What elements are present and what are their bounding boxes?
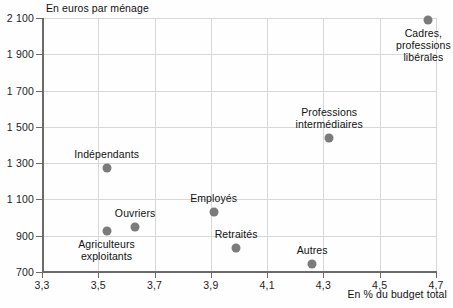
data-point-label: Agriculteurs exploitants — [78, 239, 135, 263]
x-axis-tick — [436, 273, 437, 278]
x-axis-tick — [380, 273, 381, 278]
y-axis-tick-label: 700 — [16, 267, 34, 278]
gridline-horizontal — [42, 163, 436, 164]
gridline-horizontal — [42, 18, 436, 19]
x-axis-tick — [42, 273, 43, 278]
gridline-horizontal — [42, 199, 436, 200]
x-axis-tick — [267, 273, 268, 278]
y-axis-tick-label: 1 500 — [7, 122, 34, 133]
gridline-vertical — [211, 18, 212, 272]
y-axis-tick — [36, 199, 42, 200]
data-point[interactable] — [325, 133, 334, 142]
x-axis-tick — [155, 273, 156, 278]
x-axis-tick — [323, 273, 324, 278]
gridline-vertical — [380, 18, 381, 272]
y-axis-tick — [36, 91, 42, 92]
data-point[interactable] — [209, 208, 218, 217]
y-axis-title: En euros par ménage — [46, 2, 149, 14]
gridline-vertical — [267, 18, 268, 272]
x-axis-tick-label: 4,7 — [428, 280, 443, 291]
x-axis-tick-label: 3,3 — [34, 280, 49, 291]
y-axis-tick-label: 1 700 — [7, 86, 34, 97]
x-axis-tick-label: 4,1 — [260, 280, 275, 291]
data-point-label: Indépendants — [74, 149, 139, 161]
data-point[interactable] — [232, 244, 241, 253]
data-point-label: Ouvriers — [115, 208, 155, 220]
x-axis-tick — [98, 273, 99, 278]
y-axis-line — [42, 18, 44, 273]
data-point[interactable] — [102, 227, 111, 236]
data-point[interactable] — [423, 15, 432, 24]
y-axis-tick — [36, 236, 42, 237]
y-axis-tick — [36, 54, 42, 55]
data-point-label: Employés — [190, 193, 237, 205]
data-point-label: Autres — [297, 245, 328, 257]
gridline-vertical — [98, 18, 99, 272]
scatter-chart: En euros par ménage En % du budget total… — [0, 0, 453, 308]
gridline-horizontal — [42, 127, 436, 128]
y-axis-tick — [36, 127, 42, 128]
data-point[interactable] — [102, 163, 111, 172]
gridline-horizontal — [42, 91, 436, 92]
data-point-label: Retraités — [215, 229, 258, 241]
gridline-vertical — [155, 18, 156, 272]
y-axis-tick-label: 2 100 — [7, 13, 34, 24]
x-axis-line — [42, 271, 437, 273]
x-axis-tick-label: 4,3 — [316, 280, 331, 291]
x-axis-tick-label: 3,5 — [91, 280, 106, 291]
y-axis-tick-label: 1 900 — [7, 49, 34, 60]
y-axis-tick-label: 1 100 — [7, 194, 34, 205]
gridline-horizontal — [42, 54, 436, 55]
x-axis-tick — [211, 273, 212, 278]
y-axis-tick — [36, 272, 42, 273]
data-point-label: Cadres, professions libérales — [396, 28, 451, 64]
data-point[interactable] — [308, 259, 317, 268]
data-point[interactable] — [130, 222, 139, 231]
x-axis-tick-label: 3,7 — [147, 280, 162, 291]
x-axis-tick-label: 3,9 — [203, 280, 218, 291]
y-axis-tick-label: 900 — [16, 231, 34, 242]
y-axis-tick — [36, 18, 42, 19]
y-axis-tick-label: 1 300 — [7, 158, 34, 169]
gridline-vertical — [323, 18, 324, 272]
data-point-label: Professions intermédiaires — [296, 107, 363, 131]
y-axis-tick — [36, 163, 42, 164]
x-axis-tick-label: 4,5 — [372, 280, 387, 291]
